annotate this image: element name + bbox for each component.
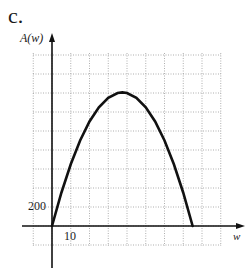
- axes: [22, 33, 245, 268]
- grid: [33, 53, 221, 246]
- chart-plot: [0, 0, 251, 275]
- data-curve: [52, 92, 193, 226]
